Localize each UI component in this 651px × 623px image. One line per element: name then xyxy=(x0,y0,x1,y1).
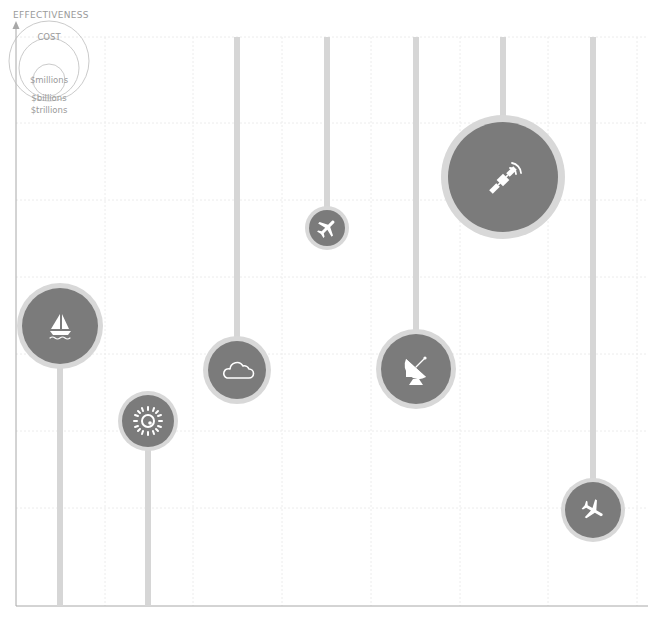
effectiveness-cost-chart: EFFECTIVENESS COST $millions $billions $… xyxy=(0,0,651,623)
point-cloud[interactable] xyxy=(203,336,271,404)
point-satellite-dish[interactable] xyxy=(376,329,456,409)
point-airplane-small[interactable] xyxy=(305,206,349,250)
grid xyxy=(16,37,648,606)
legend-title: COST xyxy=(37,32,61,42)
legend-millions: $millions xyxy=(30,75,69,85)
point-satellite[interactable] xyxy=(441,115,565,239)
point-airplane-right[interactable] xyxy=(561,478,625,542)
cost-legend: COST $millions $billions $trillions xyxy=(9,21,89,115)
point-sailboat[interactable] xyxy=(17,283,103,369)
y-axis-label: EFFECTIVENESS xyxy=(13,10,89,20)
axes: EFFECTIVENESS xyxy=(13,10,649,606)
y-axis-arrow-icon xyxy=(13,21,20,29)
point-sun[interactable] xyxy=(118,391,178,451)
legend-billions: $billions xyxy=(31,93,67,103)
legend-trillions: $trillions xyxy=(31,105,68,115)
